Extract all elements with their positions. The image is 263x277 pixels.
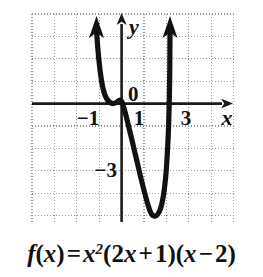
formula-equals: = [67, 240, 81, 267]
formula-paren-close-1: ) [56, 240, 64, 267]
x-tick-label-3: 3 [181, 106, 192, 130]
polynomial-graph-figure: 0 −1 1 3 −3 x y f(x) = x2(2x + 1)(x − 2) [0, 0, 263, 277]
formula-f: f [27, 240, 35, 267]
formula-group2-open: ( [176, 240, 184, 267]
formula-minus: − [199, 240, 213, 267]
formula-x-term-3: x [184, 240, 197, 267]
formula-x-base: x [83, 240, 96, 267]
x-tick-label-neg1: −1 [77, 106, 99, 130]
formula-coefficient-2: 2 [111, 240, 124, 267]
formula-exponent: 2 [96, 241, 104, 257]
x-tick-label-1: 1 [134, 106, 145, 130]
formula-group1-close: ) [167, 240, 175, 267]
graph-plot-area: 0 −1 1 3 −3 x y [0, 0, 263, 232]
coordinate-plane-svg: 0 −1 1 3 −3 x y [0, 0, 263, 232]
origin-label: 0 [128, 82, 139, 106]
formula-x-arg: x [44, 240, 57, 267]
formula-x-term-2: x [124, 240, 137, 267]
function-formula: f(x) = x2(2x + 1)(x − 2) [27, 241, 236, 266]
axis-tick-labels: 0 −1 1 3 −3 x y [77, 14, 233, 182]
formula-one: 1 [155, 240, 168, 267]
formula-paren-open-1: ( [36, 240, 44, 267]
figure-caption: f(x) = x2(2x + 1)(x − 2) [0, 231, 263, 275]
formula-group2-close: ) [227, 240, 235, 267]
formula-plus: + [139, 240, 153, 267]
y-axis-label: y [126, 14, 139, 39]
x-axis-label: x [221, 105, 233, 130]
formula-two: 2 [215, 240, 228, 267]
y-tick-label-neg3: −3 [95, 158, 117, 182]
